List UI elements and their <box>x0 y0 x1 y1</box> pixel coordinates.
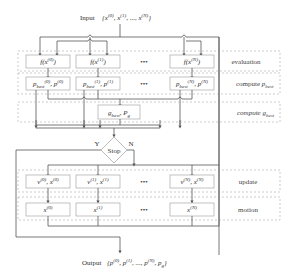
svg-text:evaluation: evaluation <box>231 58 261 66</box>
svg-text:Input: Input <box>80 14 95 22</box>
svg-text:Stop: Stop <box>108 147 121 155</box>
stage-update: v(0), x(0) v(1), x(1) ••• v(N), x(N) upd… <box>18 170 280 192</box>
svg-text:{p(0), p(1), ..., p(N), pg}: {p(0), p(1), ..., p(N), pg} <box>107 258 167 268</box>
stage-motion: x(0) x(1) ••• x(N) motion <box>18 197 280 220</box>
input-label: Input {x(0), x(1), ..., x(N)} <box>80 13 151 22</box>
stage-compute-gbest: gbest, Pg compute gbest <box>18 102 280 122</box>
svg-text:•••: ••• <box>140 206 148 214</box>
svg-text:•••: ••• <box>140 58 148 66</box>
svg-text:compute gbest: compute gbest <box>237 109 275 118</box>
gather-to-stop <box>36 119 180 136</box>
update-to-motion-arrows <box>48 188 192 202</box>
svg-text:Output: Output <box>82 259 102 267</box>
output-label: Output {p(0), p(1), ..., p(N), pg} <box>82 258 167 268</box>
stage-compute-pbest: pbest(0), p(0) pbest(1), p(1) ••• pbest(… <box>18 73 280 94</box>
pso-flowchart: Input {x(0), x(1), ..., x(N)} f(x(0)) f(… <box>0 0 294 279</box>
svg-text:gbest, Pg: gbest, Pg <box>108 109 130 118</box>
svg-text:•••: ••• <box>140 178 148 186</box>
svg-text:{x(0), x(1), ..., x(N)}: {x(0), x(1), ..., x(N)} <box>102 13 151 22</box>
svg-text:compute pbest: compute pbest <box>236 80 274 89</box>
svg-text:motion: motion <box>238 206 258 214</box>
svg-text:N: N <box>128 140 133 148</box>
svg-text:•••: ••• <box>140 80 148 88</box>
svg-text:Y: Y <box>94 140 99 148</box>
decision-branches <box>16 150 219 252</box>
svg-text:update: update <box>239 178 258 186</box>
